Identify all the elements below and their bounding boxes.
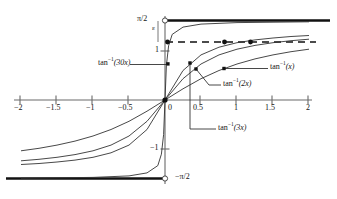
x-tick-label-neg1: −1 xyxy=(86,104,95,112)
fn-arg-x: (x) xyxy=(286,62,295,71)
x-tick-label-0: 0 xyxy=(168,104,172,112)
fn-arg-2x: (2x) xyxy=(239,79,252,88)
series-label-tan-2x: tan−1(2x) xyxy=(223,80,252,88)
fn-base-30x: tan xyxy=(98,58,108,67)
open-marker-pi-over-2 xyxy=(162,18,167,23)
open-marker-neg-pi-over-2 xyxy=(162,176,167,181)
y-label-neg-one: −1 xyxy=(150,144,159,152)
fn-base-3x: tan xyxy=(218,123,228,132)
y-label-neg-pi-over-2: −π/2 xyxy=(175,173,190,181)
fn-arg-3x: (3x) xyxy=(234,123,247,132)
fn-base-2x: tan xyxy=(223,79,233,88)
fn-arg-30x: (30x) xyxy=(114,58,131,67)
y-label-pi-over-2: π/2 xyxy=(137,15,147,23)
fn-base-x: tan xyxy=(270,62,280,71)
marker-square-3x xyxy=(188,61,191,64)
x-tick-label-0p5: 0.5 xyxy=(193,104,203,112)
y-label-epsilon: ε xyxy=(152,25,155,32)
series-label-tan-30x: tan−1(30x) xyxy=(98,59,131,67)
series-label-tan-x: tan−1(x) xyxy=(270,63,295,71)
series-label-tan-3x: tan−1(3x) xyxy=(218,124,247,132)
marker-square-30x xyxy=(166,62,169,65)
x-tick-label-1: 1 xyxy=(234,104,238,112)
x-tick-label-1p5: 1.5 xyxy=(265,104,275,112)
marker-square-x xyxy=(222,67,225,70)
x-tick-label-neg1p5: −1.5 xyxy=(46,104,61,112)
plot-canvas xyxy=(0,0,337,199)
intersection-dot-3x xyxy=(222,40,227,45)
intersection-dot-30x xyxy=(165,40,170,45)
y-label-one: 1 xyxy=(155,46,159,54)
origin-dot xyxy=(162,97,167,102)
intersection-dot-2x xyxy=(248,40,253,45)
leader-tan-3x xyxy=(190,63,216,129)
x-tick-label-2: 2 xyxy=(306,104,310,112)
arctan-family-plot-figure: π/2 ε 1 −1 −π/2 −2 −1.5 −1 −0.5 0 0.5 1 … xyxy=(0,0,337,199)
x-tick-label-neg2: −2 xyxy=(14,104,23,112)
marker-square-2x xyxy=(194,67,197,70)
x-tick-label-neg0p5: −0.5 xyxy=(118,104,133,112)
